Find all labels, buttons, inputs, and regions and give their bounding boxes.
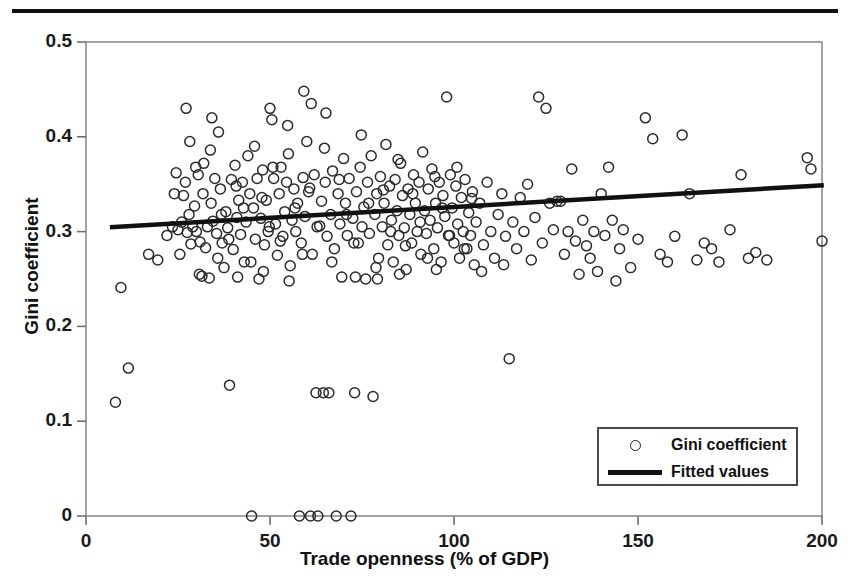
scatter-point (707, 244, 717, 254)
scatter-point (662, 257, 672, 267)
scatter-point (452, 162, 462, 172)
scatter-point (213, 253, 223, 263)
scatter-point (319, 143, 329, 153)
scatter-point (186, 239, 196, 249)
scatter-point (526, 255, 536, 265)
scatter-point (585, 253, 595, 263)
scatter-point (477, 266, 487, 276)
scatter-point (265, 103, 275, 113)
scatter-point (236, 229, 246, 239)
scatter-point (725, 225, 735, 235)
scatter-point (185, 137, 195, 147)
scatter-point (179, 191, 189, 201)
scatter-point (195, 237, 205, 247)
scatter-point (802, 153, 812, 163)
scatter-point (350, 388, 360, 398)
scatter-point (548, 225, 558, 235)
scatter-point (429, 244, 439, 254)
scatter-point (356, 130, 366, 140)
scatter-point (248, 203, 258, 213)
scatter-point (153, 255, 163, 265)
scatter-point (806, 164, 816, 174)
y-axis-label: Gini coefficient (21, 166, 43, 366)
scatter-point (397, 191, 407, 201)
open-circle-icon (599, 440, 671, 451)
scatter-point (299, 86, 309, 96)
scatter-point (198, 189, 208, 199)
y-tick-label: 0.4 (46, 125, 72, 147)
scatter-point (372, 274, 382, 284)
scatter-point (751, 247, 761, 257)
scatter-point (464, 208, 474, 218)
scatter-point (368, 392, 378, 402)
scatter-point (307, 249, 317, 259)
scatter-point (245, 189, 255, 199)
legend-label-fitted: Fitted values (671, 463, 769, 481)
scatter-point (412, 227, 422, 237)
scatter-point (258, 266, 268, 276)
scatter-point (386, 227, 396, 237)
scatter-point (431, 265, 441, 275)
scatter-point (210, 174, 220, 184)
scatter-point (388, 257, 398, 267)
scatter-point (383, 240, 393, 250)
legend-label-gini: Gini coefficient (671, 436, 787, 454)
scatter-point (206, 198, 216, 208)
scatter-point (460, 174, 470, 184)
scatter-point (335, 219, 345, 229)
scatter-point (329, 244, 339, 254)
scatter-point (123, 363, 133, 373)
scatter-point (371, 263, 381, 273)
scatter-point (269, 174, 279, 184)
scatter-point (736, 170, 746, 180)
scatter-point (379, 198, 389, 208)
scatter-point (471, 217, 481, 227)
scatter-point (334, 174, 344, 184)
scatter-point (415, 217, 425, 227)
scatter-point (366, 151, 376, 161)
scatter-point (399, 223, 409, 233)
scatter-point (328, 166, 338, 176)
scatter-point (215, 184, 225, 194)
scatter-point (302, 137, 312, 147)
scatter-point (381, 139, 391, 149)
scatter-point (407, 238, 417, 248)
scatter-point (497, 189, 507, 199)
scatter-point (333, 189, 343, 199)
scatter-point (455, 253, 465, 263)
scatter-point (499, 260, 509, 270)
scatter-point (489, 253, 499, 263)
scatter-point (493, 210, 503, 220)
scatter-point (223, 223, 233, 233)
scatter-point (375, 172, 385, 182)
y-tick-label: 0.3 (46, 220, 72, 242)
scatter-point (243, 151, 253, 161)
scatter-point (144, 249, 154, 259)
scatter-point (410, 198, 420, 208)
scatter-point (230, 160, 240, 170)
scatter-point (534, 92, 544, 102)
scatter-point (355, 162, 365, 172)
scatter-point (574, 269, 584, 279)
scatter-point (297, 249, 307, 259)
scatter-point (285, 261, 295, 271)
scatter-point (175, 249, 185, 259)
scatter-point (449, 238, 459, 248)
scatter-point (640, 113, 650, 123)
scatter-point (519, 227, 529, 237)
scatter-point (182, 228, 192, 238)
scatter-point (289, 184, 299, 194)
scatter-point (190, 201, 200, 211)
scatter-point (600, 230, 610, 240)
scatter-point (482, 177, 492, 187)
scatter-point (327, 257, 337, 267)
scatter-point (626, 263, 636, 273)
scatter-point (296, 238, 306, 248)
scatter-point (298, 173, 308, 183)
scatter-point (442, 92, 452, 102)
scatter-point (611, 276, 621, 286)
scatter-point (213, 127, 223, 137)
scatter-point (563, 227, 573, 237)
scatter-point (467, 193, 477, 203)
scatter-point (504, 354, 514, 364)
